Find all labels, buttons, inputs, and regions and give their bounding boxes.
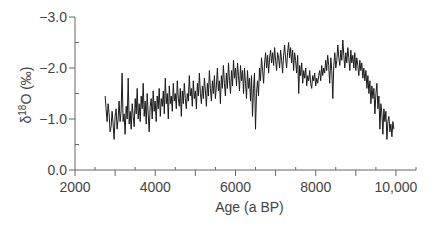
chart: 0.0−1.0−2.0−3.0 200040006000800010,000 A… [0, 0, 437, 229]
y-title-delta: δ [18, 116, 34, 124]
x-axis-title: Age (a BP) [215, 199, 283, 215]
y-tick-label: 0.0 [48, 162, 68, 178]
plot-area [105, 40, 394, 139]
x-axis: 200040006000800010,000 [59, 167, 417, 195]
x-tick-label: 6000 [220, 179, 251, 195]
x-tick-label: 8000 [300, 179, 331, 195]
y-tick-label: −2.0 [39, 60, 67, 76]
y-axis-title: δ18O (‰) [17, 66, 35, 123]
x-tick-label: 2000 [59, 179, 90, 195]
x-tick-label: 10,000 [375, 179, 418, 195]
y-title-sup: 18 [17, 104, 28, 116]
y-tick-label: −1.0 [39, 111, 67, 127]
y-title-rest: O (‰) [18, 66, 34, 104]
data-line [105, 40, 394, 139]
y-axis: 0.0−1.0−2.0−3.0 [39, 9, 79, 178]
x-tick-label: 4000 [140, 179, 171, 195]
y-tick-label: −3.0 [39, 9, 67, 25]
